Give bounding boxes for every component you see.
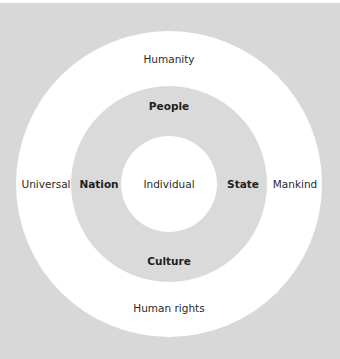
- label-individual: Individual: [143, 179, 194, 190]
- diagram-canvas: Humanity Universal Mankind Human rights …: [0, 3, 340, 359]
- label-mankind: Mankind: [273, 179, 317, 190]
- label-nation: Nation: [79, 179, 118, 190]
- label-state: State: [227, 179, 259, 190]
- label-humanity: Humanity: [143, 54, 194, 65]
- label-human-rights: Human rights: [133, 303, 204, 314]
- label-universal: Universal: [21, 179, 70, 190]
- label-culture: Culture: [147, 256, 191, 267]
- label-people: People: [149, 101, 189, 112]
